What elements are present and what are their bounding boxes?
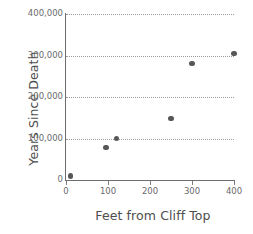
x-tick-mark xyxy=(108,181,109,185)
data-point xyxy=(231,51,236,56)
x-tick-label: 0 xyxy=(46,186,86,196)
y-tick-label: 200,000 xyxy=(3,91,63,101)
x-tick-mark xyxy=(150,181,151,185)
data-point xyxy=(114,136,119,141)
x-tick-label: 100 xyxy=(88,186,128,196)
gridline xyxy=(66,56,234,57)
gridline xyxy=(66,139,234,140)
x-tick-mark xyxy=(192,181,193,185)
y-tick-label: 100,000 xyxy=(3,133,63,143)
y-tick-label: 0 xyxy=(3,174,63,184)
x-tick-label: 200 xyxy=(130,186,170,196)
x-tick-label: 300 xyxy=(172,186,212,196)
gridline xyxy=(66,14,234,15)
gridline xyxy=(66,97,234,98)
data-point xyxy=(189,61,194,66)
x-tick-label: 400 xyxy=(214,186,253,196)
y-tick-label: 400,000 xyxy=(3,8,63,18)
x-tick-mark xyxy=(234,181,235,185)
x-axis-title: Feet from Cliff Top xyxy=(60,208,246,223)
x-tick-mark xyxy=(66,181,67,185)
y-tick-label: 300,000 xyxy=(3,50,63,60)
data-point xyxy=(68,173,73,178)
data-point xyxy=(168,116,173,121)
scatter-chart: Years Since Death Feet from Cliff Top 01… xyxy=(0,0,253,234)
plot-area xyxy=(66,14,234,180)
data-point xyxy=(103,145,108,150)
